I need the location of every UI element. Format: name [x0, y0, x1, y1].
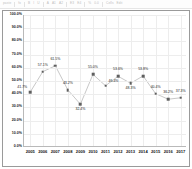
data-point-label: 55.0% [88, 67, 98, 71]
plot-area: 100.0%90.0%80.0%70.0%60.0%50.0%40.0%30.0… [23, 15, 186, 147]
x-axis-tick-label: 2006 [38, 150, 47, 154]
data-point-marker[interactable] [104, 84, 107, 87]
gridline-vertical [131, 15, 132, 146]
x-axis-tick-label: 2005 [26, 150, 35, 154]
y-axis-tick-label: 40.0% [12, 92, 22, 96]
gridline-horizontal [24, 81, 186, 82]
y-axis-tick-label: 80.0% [12, 40, 22, 44]
gridline-horizontal [24, 15, 186, 16]
gridline-vertical [156, 15, 157, 146]
data-point-label: 53.6% [113, 68, 123, 72]
spreadsheet-toolbar[interactable]: paste fx B I U A A1 A2 E3 E4 % 0.0 Cells… [0, 0, 192, 9]
data-point-label: 36.2% [163, 91, 173, 95]
x-axis-tick-label: 2012 [113, 150, 122, 154]
x-axis-tick-label: 2009 [76, 150, 85, 154]
data-point-label: 37.3% [176, 90, 186, 94]
y-axis-tick-label: 20.0% [12, 119, 22, 123]
y-axis-tick-label: 60.0% [12, 66, 22, 70]
gridline-vertical [168, 15, 169, 146]
y-axis-tick-label: 30.0% [12, 106, 22, 110]
toolbar-item[interactable]: U [37, 2, 39, 5]
x-axis-tick-label: 2010 [88, 150, 97, 154]
gridline-horizontal [24, 28, 186, 29]
data-point-marker[interactable] [129, 82, 132, 85]
x-axis-tick-label: 2013 [126, 150, 135, 154]
data-point-label: 57.1% [38, 64, 48, 68]
toolbar-item[interactable]: A [47, 2, 49, 5]
gridline-vertical [106, 15, 107, 146]
x-axis-tick-label: 2011 [101, 150, 110, 154]
toolbar-item[interactable]: paste [3, 2, 11, 5]
gridline-horizontal [24, 121, 186, 122]
toolbar-separator [84, 2, 85, 7]
gridline-horizontal [24, 94, 186, 95]
x-axis-tick-label: 2008 [63, 150, 72, 154]
data-point-label: 53.8% [138, 68, 148, 72]
data-point-label: 32.4% [75, 108, 85, 112]
y-axis-tick-label: 0.0% [14, 145, 22, 149]
gridline-vertical [181, 15, 182, 146]
y-axis-tick-label: 100.0% [10, 13, 22, 17]
gridline-horizontal [24, 134, 186, 135]
y-axis-tick-label: 10.0% [12, 132, 22, 136]
gridline-vertical [143, 15, 144, 146]
toolbar-item[interactable]: I [33, 2, 34, 5]
toolbar-item[interactable]: Edit [117, 2, 123, 5]
data-point-marker[interactable] [117, 75, 120, 78]
chart-container: 100.0%90.0%80.0%70.0%60.0%50.0%40.0%30.0… [2, 10, 190, 167]
data-point-label: 61.5% [50, 58, 60, 62]
gridline-vertical [30, 15, 31, 146]
data-point-marker[interactable] [79, 103, 82, 106]
data-point-label: 48.3% [126, 87, 136, 91]
gridline-vertical [55, 15, 56, 146]
gridline-horizontal [24, 55, 186, 56]
data-point-marker[interactable] [92, 73, 95, 76]
toolbar-item[interactable]: E4 [77, 2, 81, 5]
data-point-marker[interactable] [179, 96, 182, 99]
gridline-horizontal [24, 41, 186, 42]
data-point-label: 41.7% [17, 86, 27, 90]
gridline-horizontal [24, 107, 186, 108]
x-axis-tick-label: 2007 [51, 150, 60, 154]
toolbar-separator [102, 2, 103, 7]
data-point-label: 43.2% [63, 82, 73, 86]
data-point-marker[interactable] [142, 75, 145, 78]
toolbar-item[interactable]: Cells [106, 2, 114, 5]
toolbar-item[interactable]: 0.0 [94, 2, 99, 5]
toolbar-item[interactable]: B [28, 2, 30, 5]
x-axis-tick-label: 2015 [151, 150, 160, 154]
chart-screenshot: paste fx B I U A A1 A2 E3 E4 % 0.0 Cells… [0, 0, 192, 169]
toolbar-item[interactable]: % [88, 2, 91, 5]
toolbar-separator [14, 2, 15, 7]
toolbar-separator [43, 2, 44, 7]
gridline-horizontal [24, 68, 186, 69]
toolbar-item[interactable]: A2 [59, 2, 63, 5]
x-axis-tick-label: 2017 [176, 150, 185, 154]
data-point-marker[interactable] [42, 70, 45, 73]
data-point-label: 40.4% [151, 86, 161, 90]
gridline-vertical [80, 15, 81, 146]
toolbar-item[interactable]: A1 [52, 2, 56, 5]
toolbar-separator [66, 2, 67, 7]
x-axis-tick-label: 2014 [139, 150, 148, 154]
data-point-marker[interactable] [29, 91, 32, 94]
data-point-marker[interactable] [67, 89, 70, 92]
toolbar-item[interactable]: E3 [70, 2, 74, 5]
gridline-vertical [93, 15, 94, 146]
y-axis-tick-label: 50.0% [12, 79, 22, 83]
data-point-marker[interactable] [154, 92, 157, 95]
data-point-marker[interactable] [167, 98, 170, 101]
y-axis-tick-label: 90.0% [12, 26, 22, 30]
y-axis-tick-label: 70.0% [12, 53, 22, 57]
toolbar-separator [24, 2, 25, 7]
gridline-vertical [43, 15, 44, 146]
toolbar-item[interactable]: fx [18, 2, 21, 5]
x-axis-tick-label: 2016 [164, 150, 173, 154]
data-point-label: 46.4% [109, 80, 119, 84]
data-point-marker[interactable] [54, 65, 57, 68]
